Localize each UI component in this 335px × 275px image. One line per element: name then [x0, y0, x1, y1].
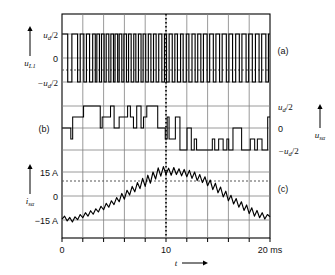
- trace-panel-a: [62, 34, 270, 82]
- panel-b-tick-zero: 0: [278, 124, 283, 134]
- panel-c-tick-zero: 0: [53, 192, 58, 202]
- x-axis-labels: 01020 ms: [59, 245, 282, 255]
- x-tick-label: 0: [59, 245, 64, 255]
- panel-b-axis-arrow: [317, 104, 322, 109]
- x-axis-title-text: t: [175, 258, 178, 268]
- panel-a-axis-label: uL1: [24, 58, 35, 69]
- panel-a-tick-negative: −ud/2: [37, 78, 58, 89]
- panel-b-tick-positive: ud/2: [278, 102, 293, 113]
- panel-b-axis-label: usα: [315, 130, 326, 141]
- panel-a-axis-arrow: [27, 26, 32, 31]
- panel-c-tick-negative: −15 A: [35, 216, 58, 226]
- panel-c-letter: (c): [278, 184, 289, 194]
- x-axis-arrow: [203, 260, 208, 265]
- waveform-svg: ud/20−ud/2uL1(a)ud/20−ud/2usα(b)15 A0−15…: [0, 0, 335, 275]
- x-tick-label: 10: [161, 245, 171, 255]
- panel-c-axis-arrow: [27, 164, 32, 169]
- x-tick-label: 20 ms: [258, 245, 283, 255]
- waveform-figure: ud/20−ud/2uL1(a)ud/20−ud/2usα(b)15 A0−15…: [0, 0, 335, 275]
- panel-a-tick-positive: ud/2: [43, 30, 58, 41]
- panel-b-tick-negative: −ud/2: [278, 146, 299, 157]
- x-axis-ticks: [62, 238, 270, 242]
- panel-b-letter: (b): [39, 124, 50, 134]
- x-axis-title: t: [175, 258, 208, 268]
- panel-c-axis-label: isα: [26, 196, 35, 207]
- panel-a-letter: (a): [278, 46, 289, 56]
- panel-c-tick-positive: 15 A: [40, 168, 58, 178]
- panel-a-tick-zero: 0: [53, 54, 58, 64]
